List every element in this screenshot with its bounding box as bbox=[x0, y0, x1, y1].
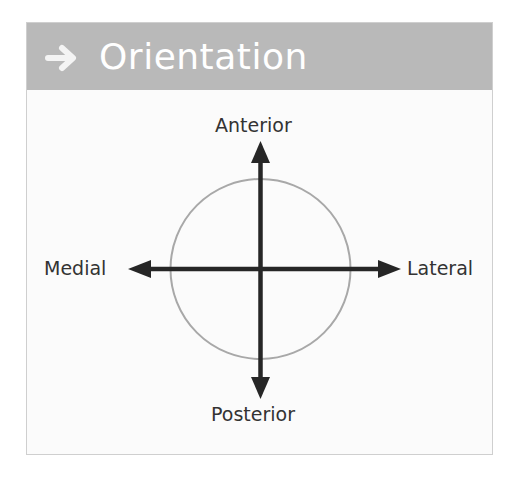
anterior-label: Anterior bbox=[215, 114, 292, 136]
lateral-arrowhead-icon bbox=[378, 260, 401, 278]
medial-arrowhead-icon bbox=[128, 260, 151, 278]
lateral-label: Lateral bbox=[407, 257, 473, 279]
anterior-arrowhead-icon bbox=[251, 141, 270, 163]
posterior-arrowhead-icon bbox=[251, 377, 270, 399]
medial-label: Medial bbox=[44, 257, 106, 279]
posterior-label: Posterior bbox=[211, 403, 295, 425]
